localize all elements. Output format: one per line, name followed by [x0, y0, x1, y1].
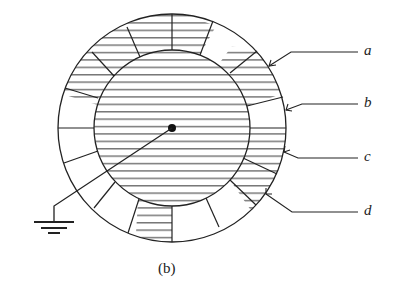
label-c: c: [364, 148, 371, 165]
label-d: d: [364, 202, 372, 219]
label-b: b: [364, 94, 372, 111]
ground-icon: [34, 222, 74, 233]
label-a: a: [364, 42, 372, 59]
diagram-canvas: [0, 0, 394, 294]
figure-caption: (b): [158, 260, 176, 277]
